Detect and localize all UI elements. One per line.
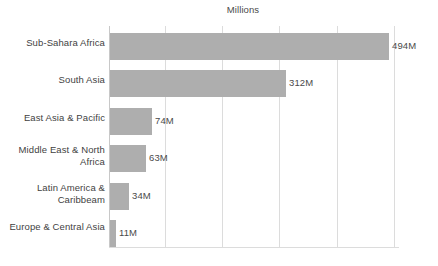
category-label-line: Latin America & bbox=[1, 182, 105, 194]
value-label-europe-central-asia: 11M bbox=[119, 227, 137, 238]
category-label-line: East Asia & Pacific bbox=[1, 112, 105, 124]
value-label-sub-sahara-africa: 494M bbox=[392, 40, 416, 51]
value-label-east-asia-pacific: 74M bbox=[155, 115, 174, 126]
category-label-middle-east-north-africa: Middle East & North Africa bbox=[1, 144, 105, 167]
value-label-latin-america-caribbeam: 34M bbox=[132, 190, 151, 201]
category-label-line: Sub-Sahara Africa bbox=[1, 37, 105, 49]
value-label-middle-east-north-africa: 63M bbox=[149, 152, 168, 163]
category-label-line: Middle East & North bbox=[1, 144, 105, 156]
category-axis: Sub-Sahara Africa South Asia East Asia &… bbox=[0, 26, 105, 248]
value-label-south-asia: 312M bbox=[289, 77, 313, 88]
category-label-line: Europe & Central Asia bbox=[1, 221, 105, 233]
bar-middle-east-north-africa[interactable] bbox=[110, 145, 146, 172]
bar-europe-central-asia[interactable] bbox=[110, 220, 116, 247]
category-label-latin-america-caribbeam: Latin America & Caribbeam bbox=[1, 182, 105, 205]
category-label-line: Caribbeam bbox=[1, 194, 105, 206]
gridline-500 bbox=[394, 26, 395, 248]
plot-area: 494M 312M 74M 63M 34M 11M bbox=[109, 26, 399, 248]
category-label-line: Africa bbox=[1, 156, 105, 168]
bar-sub-sahara-africa[interactable] bbox=[110, 33, 389, 60]
category-label-sub-sahara-africa: Sub-Sahara Africa bbox=[1, 37, 105, 49]
chart-title: Millions bbox=[109, 4, 377, 15]
category-label-east-asia-pacific: East Asia & Pacific bbox=[1, 112, 105, 124]
x-axis-line bbox=[109, 247, 399, 248]
bar-south-asia[interactable] bbox=[110, 70, 286, 97]
category-label-europe-central-asia: Europe & Central Asia bbox=[1, 221, 105, 233]
bar-latin-america-caribbeam[interactable] bbox=[110, 183, 129, 210]
category-label-line: South Asia bbox=[1, 74, 105, 86]
bar-chart: Millions Sub-Sahara Africa South Asia Ea… bbox=[0, 0, 438, 266]
bar-east-asia-pacific[interactable] bbox=[110, 108, 152, 135]
category-label-south-asia: South Asia bbox=[1, 74, 105, 86]
